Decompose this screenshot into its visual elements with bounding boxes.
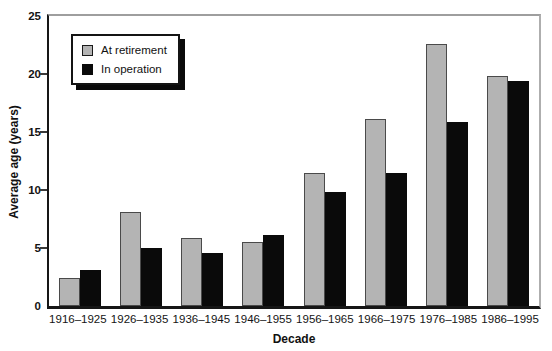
y-tick-label: 20 xyxy=(0,67,41,81)
x-tick-label: 1926–1935 xyxy=(109,313,171,325)
bar-at-retirement xyxy=(426,44,447,306)
bar-chart-figure: Average age (years) At retirement In ope… xyxy=(0,0,552,351)
bar-group xyxy=(233,16,294,306)
bar-group xyxy=(417,16,478,306)
y-tick-label: 5 xyxy=(0,241,41,255)
bar-at-retirement xyxy=(120,212,141,306)
y-tick-mark xyxy=(40,247,47,249)
y-axis-title: Average age (years) xyxy=(7,105,21,219)
bar-group xyxy=(478,16,539,306)
y-tick-mark xyxy=(40,131,47,133)
legend: At retirement In operation xyxy=(71,34,180,85)
y-tick-label: 15 xyxy=(0,125,41,139)
bar-group xyxy=(172,16,233,306)
legend-label-in-operation: In operation xyxy=(101,63,162,75)
bar-at-retirement xyxy=(304,173,325,306)
x-axis-title: Decade xyxy=(47,332,541,346)
y-tick-label: 0 xyxy=(0,299,41,313)
bar-group xyxy=(355,16,416,306)
bar-in-operation xyxy=(386,173,407,306)
bar-at-retirement xyxy=(59,278,80,306)
bar-in-operation xyxy=(263,235,284,306)
bar-at-retirement xyxy=(242,242,263,306)
bar-at-retirement xyxy=(365,119,386,306)
legend-swatch-in-operation-icon xyxy=(82,64,93,75)
bar-in-operation xyxy=(325,192,346,306)
y-tick-mark xyxy=(40,73,47,75)
bar-at-retirement xyxy=(487,76,508,306)
bar-in-operation xyxy=(508,81,529,306)
legend-swatch-at-retirement-icon xyxy=(82,45,93,56)
legend-label-at-retirement: At retirement xyxy=(101,44,167,56)
x-tick-label: 1916–1925 xyxy=(47,313,109,325)
bar-in-operation xyxy=(202,253,223,306)
x-tick-label: 1936–1945 xyxy=(171,313,233,325)
legend-item-in-operation: In operation xyxy=(82,63,167,75)
y-tick-label: 25 xyxy=(0,9,41,23)
x-tick-label: 1986–1995 xyxy=(479,313,541,325)
bar-in-operation xyxy=(447,122,468,306)
x-tick-label: 1976–1985 xyxy=(418,313,480,325)
x-tick-label: 1966–1975 xyxy=(356,313,418,325)
x-tick-labels: 1916–19251926–19351936–19451946–19551956… xyxy=(47,313,541,325)
bar-at-retirement xyxy=(181,238,202,306)
bar-group xyxy=(294,16,355,306)
bar-in-operation xyxy=(80,270,101,306)
legend-item-at-retirement: At retirement xyxy=(82,44,167,56)
x-tick-label: 1956–1965 xyxy=(294,313,356,325)
bar-in-operation xyxy=(141,248,162,306)
y-tick-mark xyxy=(40,189,47,191)
x-tick-label: 1946–1955 xyxy=(232,313,294,325)
y-tick-label: 10 xyxy=(0,183,41,197)
